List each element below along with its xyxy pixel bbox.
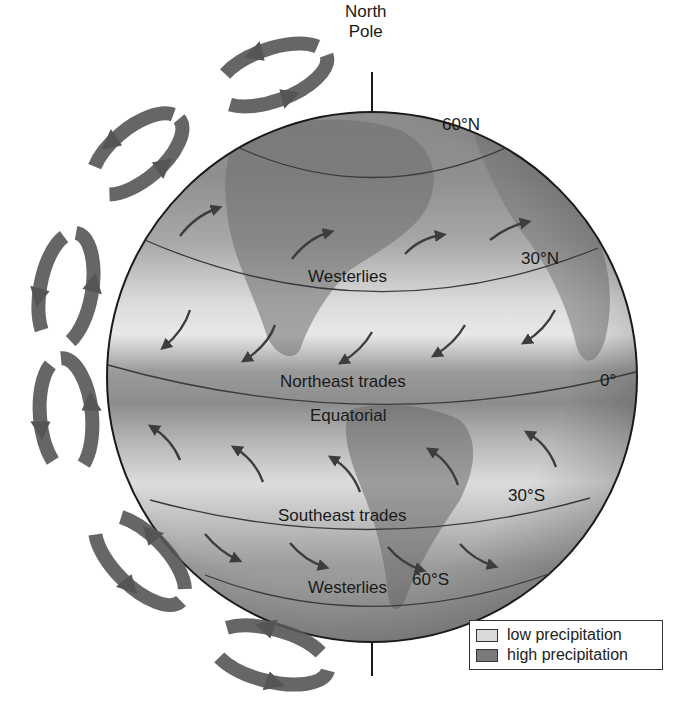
legend-item-high: high precipitation — [476, 645, 656, 665]
north-pole-label: North Pole — [345, 2, 387, 42]
cell-ferrel-north — [20, 227, 111, 354]
circulation-diagram: North Pole 60°N 30°N 0° 30°S 60°S Wester… — [0, 0, 676, 716]
legend-label-high: high precipitation — [507, 646, 628, 664]
latitude-0-label: 0° — [600, 371, 616, 390]
latitude-60s-label: 60°S — [412, 570, 449, 589]
latitude-30n-label: 30°N — [521, 249, 559, 268]
north-pole-label-line2: Pole — [345, 22, 387, 42]
cell-polar-north — [205, 21, 339, 128]
northeast-trades-label: Northeast trades — [280, 372, 406, 391]
globe-diagram-svg — [0, 0, 676, 716]
legend-item-low: low precipitation — [476, 625, 656, 645]
legend: low precipitation high precipitation — [469, 620, 663, 670]
southeast-trades-label: Southeast trades — [278, 506, 407, 525]
high-precipitation-swatch — [476, 649, 498, 662]
north-pole-label-line1: North — [345, 2, 387, 22]
cell-hadley-north — [25, 355, 107, 477]
westerlies-north-label: Westerlies — [308, 267, 387, 286]
latitude-30s-label: 30°S — [508, 486, 545, 505]
latitude-60n-label: 60°N — [442, 115, 480, 134]
low-precipitation-swatch — [476, 629, 498, 642]
legend-label-low: low precipitation — [507, 626, 622, 644]
equatorial-label: Equatorial — [310, 406, 387, 425]
westerlies-south-label: Westerlies — [308, 578, 387, 597]
